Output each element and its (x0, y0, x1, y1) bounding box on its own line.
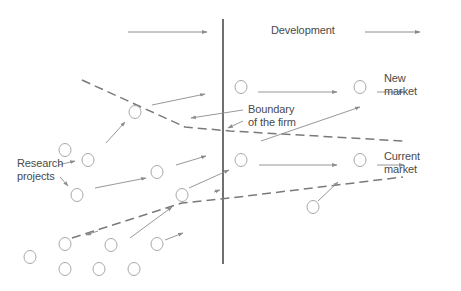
boundary-of-firm-label: Boundary of the firm (248, 103, 296, 129)
new-market-line2: market (384, 85, 417, 98)
project-node (151, 238, 163, 251)
boundary-line2: of the firm (248, 116, 296, 129)
research-line1: Research (17, 157, 63, 170)
boundary-pointer-arrow-icon (228, 121, 243, 128)
arrow-icon (318, 182, 338, 201)
arrow-icon (165, 233, 183, 240)
project-node (128, 263, 140, 276)
project-node (82, 154, 94, 167)
arrow-icon (176, 156, 206, 165)
boundary-line1: Boundary (248, 103, 296, 116)
current-market-line1: Current (384, 150, 420, 163)
project-node (307, 201, 319, 214)
boundary-pointer-arrow-icon (191, 110, 243, 118)
arrow-icon (214, 190, 220, 192)
project-node (354, 81, 366, 94)
development-label: Development (271, 24, 335, 37)
project-node (24, 251, 36, 264)
research-projects-label: Research projects (17, 157, 63, 183)
project-node (176, 189, 188, 202)
lower-boundary-dashed-line (72, 177, 403, 238)
current-market-label: Current market (384, 150, 420, 176)
arrow-icon (130, 207, 172, 238)
project-node (59, 144, 71, 157)
arrow-icon (106, 122, 125, 143)
project-node (93, 263, 105, 276)
arrow-icon (95, 178, 146, 188)
project-node (71, 189, 83, 202)
project-node (235, 81, 247, 94)
project-node (59, 238, 71, 251)
project-node (105, 239, 117, 252)
project-node (235, 154, 247, 167)
project-node (354, 154, 366, 167)
open-innovation-diagram (0, 0, 461, 291)
current-market-line2: market (384, 163, 420, 176)
project-node (129, 106, 141, 119)
project-node (59, 263, 71, 276)
new-market-line1: New (384, 72, 417, 85)
research-line2: projects (17, 170, 63, 183)
project-node (151, 166, 163, 179)
arrow-icon (152, 94, 205, 105)
new-market-label: New market (384, 72, 417, 98)
